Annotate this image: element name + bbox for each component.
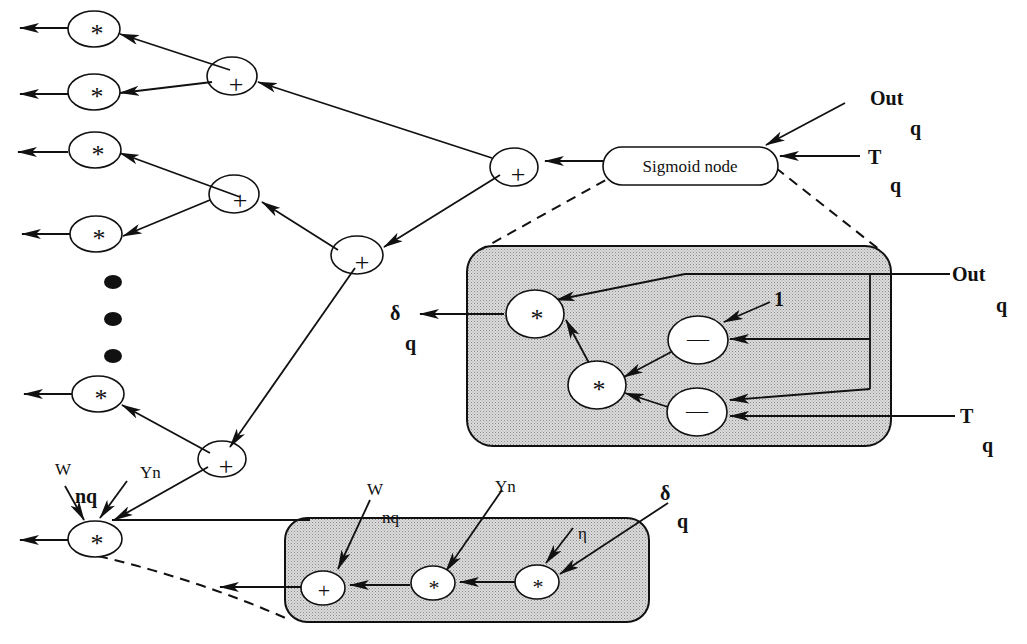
svg-text:q: q [890, 174, 901, 197]
weight-y-label: Yn [140, 463, 161, 482]
top-t-label: T q [868, 146, 901, 197]
sigmoid-minus-top-node: — [668, 316, 728, 364]
svg-text:—: — [686, 326, 710, 351]
svg-text:*: * [93, 224, 106, 253]
svg-text:+: + [511, 160, 526, 189]
weight-w-label: W nq [55, 460, 97, 508]
sigmoid-outer-multiply-node: * [506, 290, 564, 338]
update-multiply-eta-node: * [515, 565, 559, 599]
sum-node-d: + [198, 441, 246, 481]
sum-node-top: + [490, 148, 538, 189]
sigmoid-one-label: 1 [774, 288, 784, 310]
left-multiply-node: * [72, 376, 124, 413]
svg-text:*: * [429, 575, 440, 600]
svg-text:q: q [677, 510, 688, 533]
svg-text:1: 1 [774, 288, 784, 310]
left-multiply-node: * [68, 74, 120, 111]
sum-node-c: + [331, 236, 383, 277]
sigmoid-out-label: Out q [952, 263, 1007, 317]
sum-node-b: + [209, 175, 259, 215]
left-multiply-node: * [70, 216, 122, 253]
svg-text:*: * [91, 529, 104, 558]
svg-text:nq: nq [75, 485, 97, 508]
svg-text:Yn: Yn [140, 463, 161, 482]
sum-node-a: + [207, 57, 257, 99]
svg-text:Sigmoid node: Sigmoid node [643, 157, 738, 176]
ellipsis-dots [104, 275, 122, 363]
svg-text:*: * [95, 384, 108, 413]
svg-text:+: + [355, 248, 370, 277]
svg-text:Out: Out [870, 87, 904, 109]
svg-text:Out: Out [952, 263, 986, 285]
svg-text:—: — [685, 398, 709, 423]
svg-text:*: * [533, 574, 544, 599]
sigmoid-node: Sigmoid node [603, 147, 778, 185]
update-eta-label: η [578, 524, 587, 543]
svg-text:q: q [405, 332, 416, 355]
svg-text:*: * [92, 140, 105, 169]
svg-text:η: η [578, 524, 587, 543]
svg-text:*: * [531, 304, 544, 333]
weight-update-panel [285, 518, 649, 622]
svg-text:nq: nq [382, 508, 400, 527]
backprop-diagram: * * * * * * + + + + + [0, 0, 1027, 644]
svg-text:+: + [233, 186, 248, 215]
svg-text:q: q [910, 117, 921, 140]
svg-text:*: * [91, 19, 104, 48]
svg-text:*: * [91, 82, 104, 111]
svg-text:+: + [318, 578, 330, 603]
sigmoid-delta-label: δ q [390, 302, 416, 355]
svg-text:W: W [367, 480, 384, 499]
left-multiply-node: * [69, 132, 121, 169]
svg-text:T: T [868, 146, 882, 168]
svg-text:Yn: Yn [495, 477, 516, 496]
svg-text:W: W [55, 460, 72, 479]
weight-multiply-node: * [68, 521, 122, 558]
update-plus-node: + [301, 571, 345, 605]
svg-text:*: * [593, 375, 606, 404]
svg-text:q: q [996, 294, 1007, 317]
left-multiply-node: * [68, 11, 120, 48]
update-multiply-y-node: * [411, 566, 455, 600]
sigmoid-minus-bottom-node: — [667, 388, 727, 436]
svg-text:δ: δ [390, 302, 400, 324]
sigmoid-t-label: T q [960, 405, 993, 457]
svg-text:T: T [960, 405, 974, 427]
top-out-label: Out q [870, 87, 921, 140]
svg-text:q: q [982, 434, 993, 457]
svg-text:δ: δ [660, 482, 670, 504]
update-delta-label: δ q [660, 482, 688, 533]
svg-text:+: + [219, 452, 234, 481]
sigmoid-inner-multiply-node: * [568, 361, 626, 409]
update-y-label: Yn [495, 477, 516, 496]
svg-text:+: + [229, 70, 244, 99]
